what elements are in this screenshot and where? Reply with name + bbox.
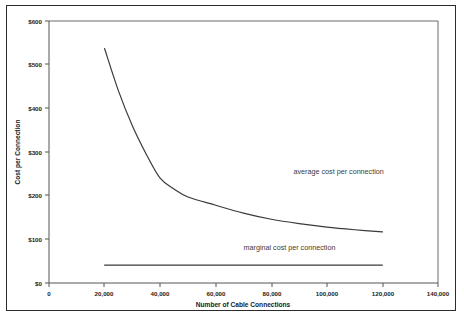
x-tick-label: 60,000 bbox=[207, 290, 226, 297]
x-tick-label: 100,000 bbox=[316, 290, 339, 297]
y-tick-label: $0 bbox=[35, 280, 42, 287]
y-axis-title: Cost per Connection bbox=[14, 120, 22, 185]
x-tick-label: 40,000 bbox=[151, 290, 170, 297]
y-tick-label: $100 bbox=[28, 236, 42, 243]
y-tick-label: $500 bbox=[28, 61, 42, 68]
y-axis-ticks bbox=[45, 21, 49, 283]
x-tick-label: 120,000 bbox=[372, 290, 395, 297]
x-tick-label: 20,000 bbox=[95, 290, 114, 297]
marginal-cost-annotation: marginal cost per connection bbox=[244, 243, 336, 252]
y-tick-label: $600 bbox=[28, 18, 42, 25]
chart-figure: $600 $500 $400 $300 $200 $100 $0 0 20,00… bbox=[0, 0, 464, 318]
x-tick-label: 0 bbox=[47, 290, 51, 297]
cost-per-connection-chart: $600 $500 $400 $300 $200 $100 $0 0 20,00… bbox=[0, 0, 464, 318]
x-axis-tick-labels: 0 20,000 40,000 60,000 80,000 100,000 12… bbox=[47, 290, 449, 297]
x-tick-label: 140,000 bbox=[427, 290, 450, 297]
y-tick-label: $200 bbox=[28, 192, 42, 199]
x-axis-ticks bbox=[49, 283, 438, 287]
x-tick-label: 80,000 bbox=[263, 290, 282, 297]
x-axis-title: Number of Cable Connections bbox=[196, 301, 291, 308]
y-axis-tick-labels: $600 $500 $400 $300 $200 $100 $0 bbox=[28, 18, 42, 287]
average-cost-annotation: average cost per connection bbox=[294, 167, 384, 176]
average-cost-curve bbox=[105, 49, 383, 232]
y-tick-label: $300 bbox=[28, 149, 42, 156]
y-tick-label: $400 bbox=[28, 105, 42, 112]
